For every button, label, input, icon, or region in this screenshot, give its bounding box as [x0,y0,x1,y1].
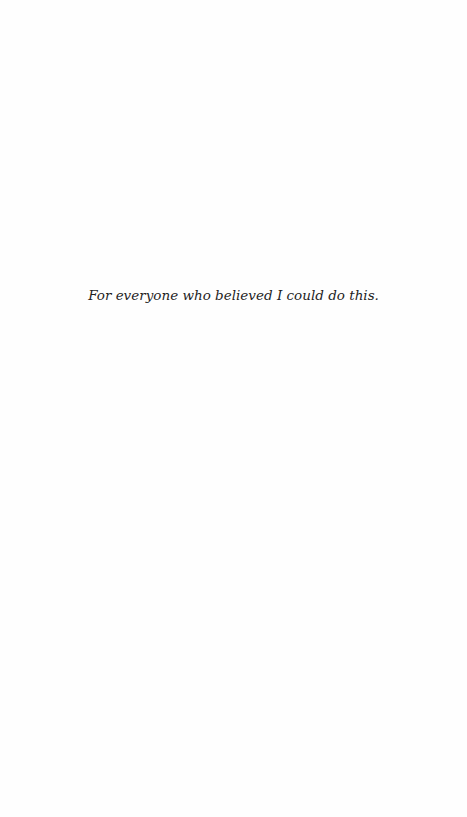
book-page: For everyone who believed I could do thi… [0,0,467,817]
dedication-text: For everyone who believed I could do thi… [0,285,467,305]
